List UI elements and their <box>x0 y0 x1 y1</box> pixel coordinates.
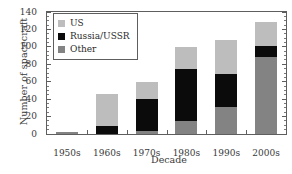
y-axis-tick <box>282 29 286 30</box>
y-axis-tick-label: 20 <box>9 112 37 121</box>
y-axis-minor-tick <box>47 42 49 43</box>
y-axis-minor-tick <box>284 125 286 126</box>
y-axis-minor-tick <box>47 51 49 52</box>
y-axis-minor-tick <box>284 94 286 95</box>
bar-segment-other <box>175 121 197 134</box>
bar-segment-russia <box>136 99 158 130</box>
legend-label-russia: Russia/USSR <box>70 32 130 41</box>
y-axis-minor-tick <box>284 68 286 69</box>
y-axis-minor-tick <box>47 55 49 56</box>
x-axis-tick <box>167 130 168 134</box>
y-axis-tick <box>47 29 51 30</box>
y-axis-minor-tick <box>47 112 49 113</box>
x-axis-tick <box>127 130 128 134</box>
x-axis-tick <box>206 130 207 134</box>
y-axis-minor-tick <box>284 107 286 108</box>
y-axis-minor-tick <box>47 125 49 126</box>
y-axis-minor-tick <box>47 94 49 95</box>
y-axis-minor-tick <box>284 16 286 17</box>
y-axis-tick <box>282 12 286 13</box>
bar-segment-other <box>255 57 277 134</box>
y-axis-tick-label: 120 <box>9 25 37 34</box>
legend-label-us: US <box>70 19 84 28</box>
y-axis-tick-label: 100 <box>9 42 37 51</box>
bar-segment-us <box>255 22 277 46</box>
bar-1950s <box>56 132 78 134</box>
y-axis-minor-tick <box>284 25 286 26</box>
bar-1970s <box>136 82 158 134</box>
bar-1990s <box>215 40 237 134</box>
bar-segment-us <box>215 40 237 74</box>
bar-segment-russia <box>215 74 237 107</box>
y-axis-minor-tick <box>284 38 286 39</box>
y-axis-minor-tick <box>284 73 286 74</box>
bar-1980s <box>175 47 197 134</box>
y-axis-tick-label: 140 <box>9 8 37 17</box>
y-axis-tick <box>282 81 286 82</box>
bar-1960s <box>96 94 118 134</box>
y-axis-minor-tick <box>47 103 49 104</box>
y-axis-tick <box>47 46 51 47</box>
bar-segment-russia <box>96 126 118 134</box>
x-axis-tick-label: 2000s <box>242 148 290 158</box>
y-axis-tick <box>47 12 51 13</box>
y-axis-minor-tick <box>47 59 49 60</box>
y-axis-tick-label: 60 <box>9 77 37 86</box>
y-axis-minor-tick <box>47 68 49 69</box>
bar-segment-us <box>96 94 118 126</box>
y-axis-minor-tick <box>47 120 49 121</box>
y-axis-minor-tick <box>284 55 286 56</box>
bar-segment-other <box>215 107 237 134</box>
y-axis-minor-tick <box>284 77 286 78</box>
legend-swatch-other-icon <box>58 46 65 53</box>
stacked-bar-chart: Number of spacecraft Decade 020406080100… <box>0 0 292 174</box>
y-axis-tick <box>47 99 51 100</box>
y-axis-tick <box>47 81 51 82</box>
bar-segment-other <box>136 131 158 134</box>
y-axis-minor-tick <box>47 20 49 21</box>
x-axis-tick <box>246 130 247 134</box>
y-axis-minor-tick <box>284 20 286 21</box>
legend-item-russia: Russia/USSR <box>58 30 133 43</box>
y-axis-minor-tick <box>284 51 286 52</box>
y-axis-minor-tick <box>284 33 286 34</box>
y-axis-tick-label: 0 <box>9 130 37 139</box>
y-axis-tick <box>47 134 51 135</box>
y-axis-minor-tick <box>47 86 49 87</box>
y-axis-minor-tick <box>47 33 49 34</box>
y-axis-tick <box>282 134 286 135</box>
y-axis-minor-tick <box>47 77 49 78</box>
bar-segment-us <box>175 47 197 69</box>
y-axis-minor-tick <box>284 90 286 91</box>
y-axis-minor-tick <box>284 103 286 104</box>
bar-segment-us <box>136 82 158 99</box>
bar-segment-russia <box>175 69 197 121</box>
legend-swatch-us-icon <box>58 20 65 27</box>
y-axis-tick <box>282 64 286 65</box>
legend-item-us: US <box>58 17 133 30</box>
y-axis-minor-tick <box>284 86 286 87</box>
bar-segment-other <box>56 132 78 134</box>
legend-item-other: Other <box>58 43 133 56</box>
y-axis-minor-tick <box>47 129 49 130</box>
y-axis-minor-tick <box>47 73 49 74</box>
y-axis-minor-tick <box>284 129 286 130</box>
y-axis-tick <box>282 46 286 47</box>
y-axis-minor-tick <box>47 38 49 39</box>
y-axis-minor-tick <box>284 59 286 60</box>
y-axis-minor-tick <box>47 90 49 91</box>
y-axis-tick-label: 40 <box>9 95 37 104</box>
y-axis-minor-tick <box>284 42 286 43</box>
y-axis-tick-label: 80 <box>9 60 37 69</box>
y-axis-tick <box>282 99 286 100</box>
y-axis-minor-tick <box>284 112 286 113</box>
x-axis-tick <box>87 130 88 134</box>
bar-2000s <box>255 22 277 134</box>
y-axis-minor-tick <box>47 25 49 26</box>
legend-label-other: Other <box>70 45 96 54</box>
y-axis-minor-tick <box>284 120 286 121</box>
y-axis-tick <box>47 64 51 65</box>
bar-segment-russia <box>255 46 277 57</box>
y-axis-tick <box>282 116 286 117</box>
y-axis-minor-tick <box>47 107 49 108</box>
